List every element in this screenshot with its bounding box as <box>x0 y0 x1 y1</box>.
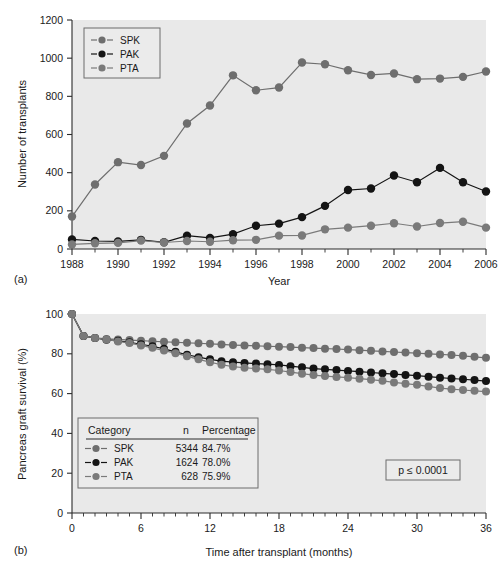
data-point <box>321 372 329 380</box>
data-point <box>344 66 352 74</box>
data-point <box>298 58 306 66</box>
data-point <box>183 119 191 127</box>
legend-cell-percentage-spk: 84.7% <box>202 443 230 454</box>
data-point <box>114 239 122 247</box>
legend-cell-category-pta: PTA <box>114 471 133 482</box>
x-tick-label: 12 <box>204 522 216 534</box>
data-point <box>413 381 421 389</box>
data-point <box>344 346 352 354</box>
data-point <box>367 71 375 79</box>
data-point <box>436 374 444 382</box>
data-point <box>321 345 329 353</box>
data-point <box>80 332 88 340</box>
data-point <box>471 387 479 395</box>
x-tick-label: 1996 <box>244 258 268 270</box>
data-point <box>206 238 214 246</box>
data-point <box>482 354 490 362</box>
legend-spk-marker <box>98 36 105 43</box>
y-tick-label: 1200 <box>40 14 64 26</box>
legend-cell-category-pak: PAK <box>114 457 134 468</box>
data-point <box>436 74 444 82</box>
data-point <box>298 344 306 352</box>
data-point <box>367 347 375 355</box>
data-point <box>252 365 260 373</box>
legend-label-spk: SPK <box>120 35 140 46</box>
data-point <box>91 180 99 188</box>
data-point <box>459 375 467 383</box>
panel-b-pvalue-box: p ≤ 0.0001 <box>386 460 460 480</box>
data-point <box>287 368 295 376</box>
x-tick-label: 2006 <box>474 258 498 270</box>
data-point <box>229 363 237 371</box>
data-point <box>413 372 421 380</box>
x-tick-label: 1990 <box>106 258 130 270</box>
data-point <box>275 83 283 91</box>
data-point <box>114 158 122 166</box>
data-point <box>436 219 444 227</box>
data-point <box>218 340 226 348</box>
data-point <box>321 202 329 210</box>
data-point <box>367 369 375 377</box>
panel-b-y-axis: 020406080100 <box>45 308 72 519</box>
data-point <box>206 358 214 366</box>
data-point <box>160 238 168 246</box>
data-point <box>252 222 260 230</box>
data-point <box>356 375 364 383</box>
x-tick-label: 18 <box>273 522 285 534</box>
legend-cell-percentage-pta: 75.9% <box>202 471 230 482</box>
data-point <box>126 339 134 347</box>
legend-cell-n-spk: 5344 <box>176 443 199 454</box>
data-point <box>241 364 249 372</box>
panel-a-svg: 020040060080010001200 198819901992199419… <box>0 0 498 292</box>
data-point <box>379 369 387 377</box>
x-tick-label: 2004 <box>428 258 452 270</box>
data-point <box>229 341 237 349</box>
pvalue-text: p ≤ 0.0001 <box>398 464 448 476</box>
y-tick-label: 200 <box>45 204 63 216</box>
data-point <box>183 339 191 347</box>
data-point <box>91 239 99 247</box>
panel-a-label: (a) <box>14 273 27 285</box>
data-point <box>471 353 479 361</box>
data-point <box>333 373 341 381</box>
panel-a-y-axis: 020040060080010001200 <box>40 14 72 255</box>
x-tick-label: 1992 <box>152 258 176 270</box>
x-tick-label: 2000 <box>336 258 360 270</box>
data-point <box>459 73 467 81</box>
legend-pta-marker <box>98 64 105 71</box>
data-point <box>482 187 490 195</box>
data-point <box>172 349 180 357</box>
data-point <box>333 345 341 353</box>
data-point <box>229 236 237 244</box>
x-tick-label: 36 <box>480 522 492 534</box>
data-point <box>137 161 145 169</box>
data-point <box>482 377 490 385</box>
data-point <box>448 374 456 382</box>
panel-b-y-axis-title: Pancreas graft survival (%) <box>16 348 28 480</box>
y-tick-label: 0 <box>57 507 63 519</box>
data-point <box>402 349 410 357</box>
data-point <box>471 376 479 384</box>
data-point <box>390 370 398 378</box>
y-tick-label: 1000 <box>40 52 64 64</box>
legend-b-pta-marker <box>92 473 99 480</box>
data-point <box>275 343 283 351</box>
data-point <box>114 337 122 345</box>
panel-a-transplants-by-year: 020040060080010001200 198819901992199419… <box>0 0 498 292</box>
data-point <box>413 178 421 186</box>
data-point <box>390 171 398 179</box>
data-point <box>195 339 203 347</box>
data-point <box>425 382 433 390</box>
data-point <box>379 377 387 385</box>
y-tick-label: 0 <box>57 243 63 255</box>
data-point <box>298 231 306 239</box>
panel-b-legend-table: CategorynPercentageSPK534484.7%PAK162478… <box>78 418 258 488</box>
data-point <box>321 225 329 233</box>
data-point <box>413 349 421 357</box>
legend-header-percentage: Percentage <box>202 424 256 436</box>
data-point <box>206 101 214 109</box>
data-point <box>390 69 398 77</box>
legend-cell-category-spk: SPK <box>114 443 134 454</box>
legend-header-n: n <box>183 424 189 436</box>
panel-b-x-axis-title: Time after transplant (months) <box>206 546 353 558</box>
